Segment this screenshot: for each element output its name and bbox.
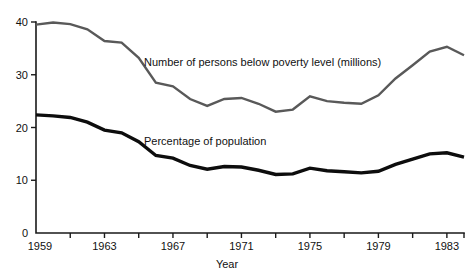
y-tick-label: 20 — [16, 122, 28, 134]
x-tick-label: 1983 — [435, 240, 459, 252]
y-tick-label: 30 — [16, 69, 28, 81]
percent-series-label: Percentage of population — [144, 135, 266, 147]
x-tick-label: 1963 — [92, 240, 116, 252]
x-tick-label: 1959 — [28, 240, 52, 252]
x-tick-label: 1971 — [229, 240, 253, 252]
poverty-line-chart: 010203040 1959196319671971197519791983 N… — [0, 0, 474, 277]
x-axis-tick-labels: 1959196319671971197519791983 — [28, 240, 459, 252]
x-axis-title: Year — [216, 258, 239, 270]
annotations-group: Number of persons below poverty level (m… — [144, 56, 381, 147]
y-tick-label: 0 — [22, 227, 28, 239]
y-axis-tick-labels: 010203040 — [16, 16, 28, 239]
chart-canvas: 010203040 1959196319671971197519791983 N… — [0, 0, 474, 277]
y-tick-label: 10 — [16, 174, 28, 186]
x-tick-label: 1979 — [366, 240, 390, 252]
y-tick-label: 40 — [16, 16, 28, 28]
x-tick-label: 1975 — [298, 240, 322, 252]
persons-series-label: Number of persons below poverty level (m… — [144, 56, 381, 68]
series-group — [36, 23, 464, 175]
x-tick-label: 1967 — [161, 240, 185, 252]
